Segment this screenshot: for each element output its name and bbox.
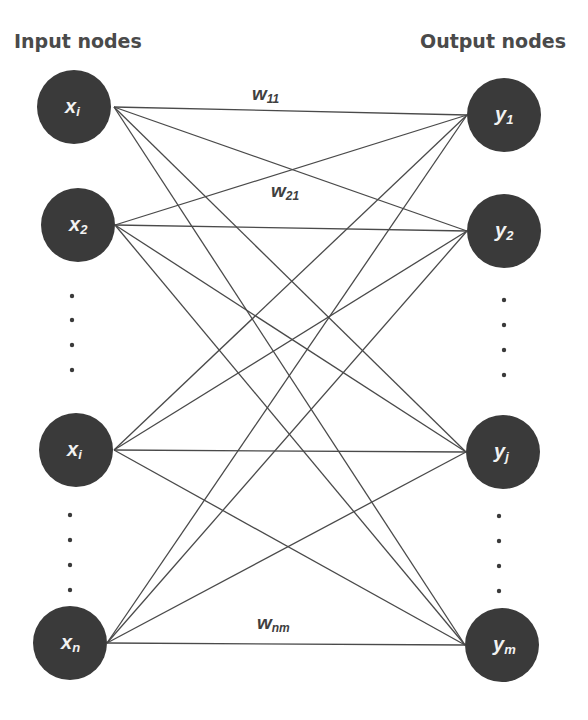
output-node-yj: yj xyxy=(466,415,540,489)
input-ellipsis-dot xyxy=(68,538,72,542)
edge-xn-y2 xyxy=(107,231,467,643)
edge-xi-y2 xyxy=(114,231,467,450)
ellipsis-dots xyxy=(68,294,506,593)
output-ellipsis-dot xyxy=(497,514,501,518)
edge-xi-y1 xyxy=(114,115,467,450)
weight-label-w11: w11 xyxy=(252,83,280,106)
input-node-xn: xn xyxy=(33,606,107,680)
edge-x2-y1 xyxy=(115,115,467,225)
column-titles: Input nodes Output nodes xyxy=(14,30,566,52)
weight-labels: w11w21wnm xyxy=(252,83,299,635)
output-ellipsis-dot xyxy=(497,589,501,593)
input-node-x2: x2 xyxy=(41,188,115,262)
output-ellipsis-dot xyxy=(502,323,506,327)
output-node-y1: y1 xyxy=(467,78,541,152)
output-ellipsis-dot xyxy=(502,298,506,302)
neural-network-diagram: Input nodes Output nodes w11w21wnm xix2x… xyxy=(0,0,588,720)
output-ellipsis-dot xyxy=(502,348,506,352)
edge-xn-ym xyxy=(107,643,465,645)
input-ellipsis-dot xyxy=(68,588,72,592)
edge-x2-ym xyxy=(115,225,465,645)
output-node-y2: y2 xyxy=(467,194,541,268)
output-ellipsis-dot xyxy=(497,539,501,543)
input-ellipsis-dot xyxy=(70,343,74,347)
output-layer: y1y2yjym xyxy=(465,78,541,682)
input-layer: xix2xixn xyxy=(33,70,115,680)
edge-xi-y2 xyxy=(114,107,467,231)
input-ellipsis-dot xyxy=(68,563,72,567)
output-node-ym: ym xyxy=(465,608,539,682)
input-ellipsis-dot xyxy=(70,294,74,298)
output-ellipsis-dot xyxy=(497,564,501,568)
input-ellipsis-dot xyxy=(70,318,74,322)
input-node-xi: xi xyxy=(39,413,113,487)
output-nodes-title: Output nodes xyxy=(420,30,566,52)
weight-connections xyxy=(107,107,467,645)
weight-label-wnm: wnm xyxy=(257,612,290,635)
edge-x2-y2 xyxy=(115,225,467,231)
weight-label-w21: w21 xyxy=(271,180,299,203)
output-ellipsis-dot xyxy=(502,373,506,377)
edge-xi-ym xyxy=(114,450,465,645)
input-ellipsis-dot xyxy=(70,368,74,372)
edge-xi-y1 xyxy=(114,107,467,115)
edge-xn-yj xyxy=(107,452,466,643)
input-ellipsis-dot xyxy=(68,513,72,517)
edge-xi-yj xyxy=(114,450,466,452)
input-nodes-title: Input nodes xyxy=(14,30,142,52)
edge-x2-yj xyxy=(115,225,466,452)
input-node-xi: xi xyxy=(37,70,111,144)
